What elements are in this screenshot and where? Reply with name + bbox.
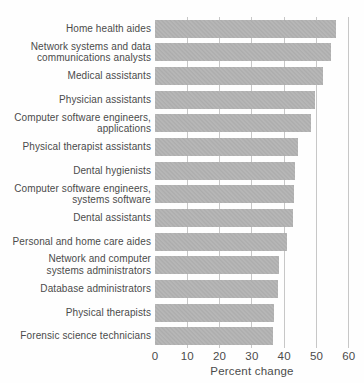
x-axis-title: Percent change	[155, 365, 349, 377]
x-tick-label-30: 30	[245, 350, 258, 362]
x-tick-label-10: 10	[181, 350, 194, 362]
x-tick-label-0: 0	[152, 350, 159, 362]
bar-chart: Home health aidesNetwork systems and dat…	[0, 0, 364, 383]
x-tick-label-60: 60	[342, 350, 355, 362]
x-tick-label-20: 20	[213, 350, 226, 362]
x-axis: 0102030405060	[0, 0, 364, 383]
x-tick-label-40: 40	[278, 350, 291, 362]
x-tick-label-50: 50	[310, 350, 323, 362]
